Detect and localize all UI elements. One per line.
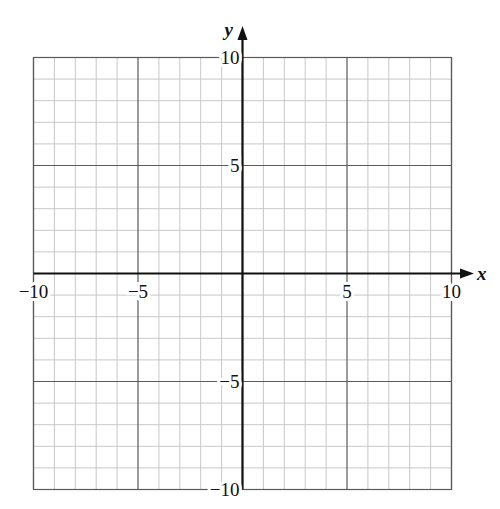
x-tick-labels: −10 −5 5 10 xyxy=(19,281,461,302)
x-tick-label: −5 xyxy=(128,281,148,302)
y-axis-arrow-icon xyxy=(238,26,248,40)
x-axis-label: x xyxy=(476,263,487,284)
x-tick-label: 10 xyxy=(442,281,461,302)
y-tick-label: −5 xyxy=(219,371,239,392)
y-tick-label: 5 xyxy=(230,155,240,176)
y-axis-label: y xyxy=(223,19,234,40)
x-tick-label: 5 xyxy=(342,281,352,302)
axes xyxy=(34,26,475,490)
x-axis-arrow-icon xyxy=(460,269,474,279)
y-tick-label: −10 xyxy=(210,479,240,500)
y-tick-label: 10 xyxy=(221,47,240,68)
x-tick-label: −10 xyxy=(19,281,49,302)
coordinate-grid: x y −10 −5 5 10 10 5 −5 −10 xyxy=(0,0,500,509)
